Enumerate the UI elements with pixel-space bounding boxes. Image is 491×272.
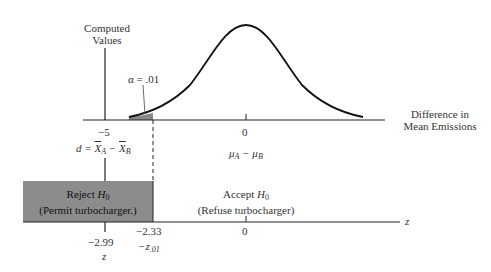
bottom-tick-zero: 0 bbox=[242, 225, 248, 237]
computed-z-label: z bbox=[102, 250, 106, 262]
z-axis-label: z bbox=[405, 215, 409, 227]
reject-region-label: Reject H0 (Permit turbocharger.) bbox=[23, 188, 153, 216]
alpha-pointer bbox=[143, 85, 145, 114]
normal-curve bbox=[129, 25, 363, 117]
statistic-label: d = XA − XB bbox=[76, 142, 131, 158]
mean-difference-label: μA − μB bbox=[229, 147, 263, 163]
accept-region-label: Accept H0 (Refuse turbocharger) bbox=[186, 188, 306, 216]
top-tick-zero: 0 bbox=[242, 126, 248, 138]
critical-z-label: −z.01 bbox=[138, 240, 160, 256]
computed-z-tick-label: −2.99 bbox=[88, 236, 113, 248]
alpha-label: α = .01 bbox=[128, 73, 159, 85]
top-tick-minus-5: −5 bbox=[98, 126, 110, 138]
difference-axis-label: Difference in Mean Emissions bbox=[392, 108, 488, 132]
critical-value-tick: −2.33 bbox=[136, 225, 161, 237]
computed-values-label: Computed Values bbox=[78, 22, 136, 46]
